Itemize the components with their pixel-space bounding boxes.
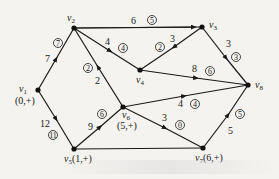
- label-v2: v2: [67, 12, 75, 25]
- flow-v1-v2: 7: [54, 39, 63, 49]
- cap-v1-v5: 12: [40, 118, 50, 129]
- cap-v2-v3: 6: [131, 15, 136, 26]
- svg-text:0: 0: [178, 121, 182, 130]
- flow-v6-v2: 2: [84, 64, 93, 74]
- node-v3: [199, 24, 204, 29]
- edge-v5-v6: [74, 107, 123, 149]
- mark-v1: (0,+): [15, 95, 35, 107]
- svg-text:4: 4: [121, 44, 125, 53]
- edge-v3-v8: [202, 27, 248, 85]
- svg-text:7: 7: [56, 39, 60, 48]
- flow-v3-v8: 3: [232, 53, 241, 63]
- cap-v1-v2: 7: [45, 53, 50, 64]
- flow-v2-v4: 4: [119, 44, 128, 54]
- flow-v6-v8: 4: [191, 100, 200, 110]
- flow-v3-v4: 2: [156, 43, 165, 53]
- cap-v5-v6: 9: [88, 121, 93, 132]
- mark-v6: (5,+): [117, 120, 137, 132]
- page-bleed-through: [60, 160, 279, 174]
- edge-v1-v2: [38, 28, 74, 90]
- flow-v5-v6: 6: [98, 110, 107, 120]
- edge-v5-v7: [74, 148, 203, 149]
- network-flow-diagram: v1 (0,+) v2 v3 v4 v5(1,+) v6 (5,+) v7(6,…: [0, 0, 279, 179]
- flow-v6-v7: 0: [176, 121, 185, 131]
- svg-text:3: 3: [234, 53, 238, 62]
- node-v8: [245, 82, 250, 87]
- node-v2: [71, 25, 76, 30]
- svg-text:6: 6: [100, 110, 104, 119]
- svg-text:5: 5: [150, 16, 154, 25]
- svg-text:4: 4: [193, 100, 197, 109]
- svg-text:2: 2: [86, 64, 90, 73]
- cap-v6-v8: 4: [178, 98, 183, 109]
- svg-text:2: 2: [158, 43, 162, 52]
- cap-v6-v7: 3: [162, 112, 167, 123]
- svg-text:6: 6: [208, 67, 212, 76]
- flow-v2-v3: 5: [148, 16, 157, 26]
- cap-v7-v8: 5: [228, 125, 233, 136]
- flow-v7-v8: 5: [236, 110, 245, 120]
- flow-v1-v5: 11: [49, 131, 58, 141]
- node-v1: [35, 87, 40, 92]
- edge-v6-v2: [74, 28, 123, 107]
- label-v4: v4: [136, 74, 144, 87]
- svg-text:5: 5: [238, 110, 242, 119]
- flow-v4-v8: 6: [206, 67, 215, 77]
- cap-v3-v8: 3: [226, 38, 231, 49]
- node-v5: [71, 146, 76, 151]
- cap-v4-v8: 8: [192, 63, 197, 74]
- edge-v2-v3: [74, 27, 202, 28]
- cap-v6-v2: 2: [95, 75, 100, 86]
- label-v8: v8: [255, 79, 263, 92]
- node-v4: [137, 67, 142, 72]
- edge-v2-v4: [74, 28, 140, 70]
- cap-v3-v4: 3: [170, 33, 175, 44]
- label-v3: v3: [209, 19, 217, 32]
- svg-text:11: 11: [49, 131, 57, 140]
- edge-v6-v8: [123, 85, 248, 107]
- node-v7: [200, 145, 205, 150]
- cap-v2-v4: 4: [105, 36, 110, 47]
